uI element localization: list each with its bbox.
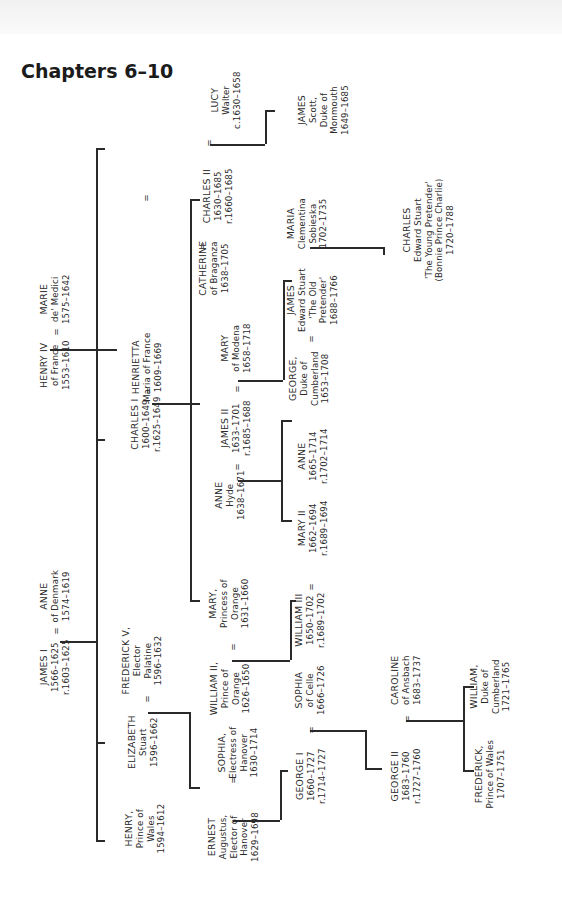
person-william-cumberland: WILLIAM,Duke ofCumberland1721–1765 <box>468 659 511 714</box>
marriage-symbol: = <box>402 715 412 723</box>
person-detail: r.1702–1714 <box>318 428 329 484</box>
person-detail: Princess of <box>219 578 230 628</box>
connector-line <box>190 600 200 602</box>
person-detail: 1609–1669 <box>153 333 164 402</box>
person-name: JAMES <box>286 268 297 332</box>
person-detail: Prince of <box>135 803 146 853</box>
connector-line <box>152 403 190 405</box>
person-name: FREDERICK V, <box>121 626 132 694</box>
connector-line <box>281 520 292 522</box>
person-detail: Duke of <box>298 351 309 406</box>
person-detail: Elector <box>132 626 143 694</box>
person-name: GEORGE, <box>287 351 298 406</box>
connector-line <box>148 712 189 714</box>
person-detail: Augustus, <box>218 812 229 862</box>
person-detail: Edward Stuart <box>297 268 308 332</box>
person-detail: 1596–1632 <box>154 626 165 694</box>
person-frederick-wales: FREDERICK,Prince of Wales1707–1751 <box>474 740 506 809</box>
connector-line <box>310 730 365 732</box>
person-name: MARIA <box>286 197 297 248</box>
connector-line <box>290 600 292 660</box>
person-charles1: CHARLES I1600–1649r.1625–1649 <box>130 396 162 452</box>
person-name: MARY, <box>208 578 219 628</box>
connector-line <box>96 742 105 744</box>
connector-line <box>60 349 117 351</box>
person-name: SOPHIA <box>294 665 305 715</box>
person-name: JAMES <box>297 85 308 135</box>
person-anne-hyde: ANNEHyde1638–1671 <box>214 470 246 520</box>
person-detail: de' Medici <box>50 274 61 324</box>
person-detail: 1721–1765 <box>501 659 512 714</box>
person-frederick5: FREDERICK V,ElectorPalatine1596–1632 <box>121 626 164 694</box>
person-charles2: CHARLES II1630–1685r.1660–1685 <box>202 168 234 224</box>
person-name: ANNE <box>39 570 50 623</box>
person-detail: Prince of <box>219 661 230 714</box>
person-detail: Electress of <box>227 726 238 778</box>
person-detail: Edward Stuart <box>412 178 423 281</box>
person-detail: Scott, <box>308 85 319 135</box>
person-detail: of Denmark <box>49 570 60 623</box>
person-detail: of France <box>50 340 61 390</box>
person-detail: 1662–1694 <box>307 500 318 556</box>
person-name: MARIE <box>39 274 50 324</box>
person-detail: Duke of <box>479 659 490 714</box>
person-henry4: HENRY IVof France1553–1610 <box>39 340 71 390</box>
connector-line <box>290 600 296 602</box>
person-detail: 1702–1735 <box>318 197 329 248</box>
person-mary2: MARY II1662–1694r.1689–1694 <box>297 500 329 556</box>
person-detail: 1666–1726 <box>315 665 326 715</box>
person-detail: 1574–1619 <box>60 570 71 623</box>
connector-line <box>265 110 267 144</box>
person-name: GEORGE II <box>390 748 401 804</box>
person-name: MARY <box>220 323 231 373</box>
person-name: ANNE <box>214 470 225 520</box>
person-charles-young-pretender: CHARLESEdward Stuart'The Young Pretender… <box>401 178 455 281</box>
person-name: CHARLES I <box>130 396 141 452</box>
person-james-monmouth: JAMESScott,Duke ofMonmouth1649–1685 <box>297 85 351 135</box>
connector-line <box>232 660 290 662</box>
person-detail: 1649–1685 <box>340 85 351 135</box>
person-detail: 1600–1649 <box>140 396 151 452</box>
person-marie-medici: MARIEde' Medici1575–1642 <box>39 274 71 324</box>
connector-line <box>463 686 465 770</box>
person-george-cumberland-1: GEORGE,Duke ofCumberland1653–1708 <box>287 351 330 406</box>
person-name: CHARLES II <box>202 168 213 224</box>
person-detail: Hanover <box>238 726 249 778</box>
connector-line <box>96 148 105 150</box>
person-detail: 1683–1737 <box>411 655 422 705</box>
person-detail: 1553–1610 <box>60 340 71 390</box>
person-name: WILLIAM II, <box>209 661 220 714</box>
person-detail: of Braganza <box>209 241 220 296</box>
person-detail: 1660–1727 <box>305 748 316 804</box>
marriage-symbol: = <box>232 463 242 471</box>
person-detail: 1633–1701 <box>230 400 241 456</box>
connector-line <box>238 380 283 382</box>
person-detail: r.1689–1702 <box>315 592 326 648</box>
person-name: HENRY, <box>124 803 135 853</box>
person-detail: 1631–1660 <box>241 578 252 628</box>
person-detail: Clementina <box>296 197 307 248</box>
person-detail: 1638–1671 <box>235 470 246 520</box>
person-detail: 1688–1766 <box>329 268 340 332</box>
connector-line <box>406 720 463 722</box>
person-detail: 1626–1650 <box>241 661 252 714</box>
person-name: GEORGE I <box>295 748 306 804</box>
person-detail: r.1714–1727 <box>316 748 327 804</box>
person-detail: of Modena <box>231 323 242 373</box>
connector-line <box>238 480 281 482</box>
person-sophia-hanover: SOPHIA,Electress ofHanover1630–1714 <box>217 726 260 778</box>
marriage-symbol: = <box>306 335 316 343</box>
person-name: LUCY <box>210 71 221 129</box>
person-detail: Monmouth <box>329 85 340 135</box>
connector-line <box>190 403 200 405</box>
connector-line <box>365 730 367 768</box>
person-detail: Walter <box>220 71 231 129</box>
connector-line <box>210 144 265 146</box>
marriage-symbol: = <box>143 387 153 395</box>
connector-line <box>96 439 105 441</box>
person-detail: 1653–1708 <box>320 351 331 406</box>
page-title: Chapters 6–10 <box>21 60 173 82</box>
person-detail: Palatine <box>143 626 154 694</box>
marriage-symbol: = <box>141 194 151 202</box>
person-detail: Wales <box>146 803 157 853</box>
